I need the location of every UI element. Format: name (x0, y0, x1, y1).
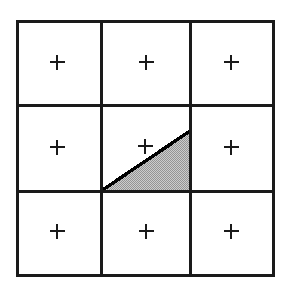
cell-r1c1[interactable] (17, 21, 101, 105)
cell-r3c1[interactable] (17, 191, 101, 275)
figure-container: Three-by-three grid of square cells with… (0, 0, 289, 292)
grid-figure-svg (0, 0, 289, 292)
cell-r2c1[interactable] (17, 105, 101, 191)
